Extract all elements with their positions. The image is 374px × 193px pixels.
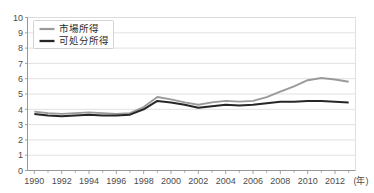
x-tick-label-2000: 2000 [161,176,181,186]
y-tick-label-1: 1 [18,150,23,160]
legend-label-0: 市場所得 [59,23,99,34]
x-tick-label-1994: 1994 [79,176,99,186]
chart-legend: 市場所得可処分所得 [34,21,114,49]
x-tick-label-1990: 1990 [24,176,44,186]
y-tick-label-9: 9 [18,28,23,38]
y-tick-label-6: 6 [18,74,23,84]
x-tick-label-1996: 1996 [106,176,126,186]
y-tick-label-0: 0 [18,166,23,176]
line-chart: 012345678910 199019921994199619982000200… [0,0,374,193]
y-axis-ticklabels: 012345678910 [13,13,28,176]
chart-figure: 012345678910 199019921994199619982000200… [0,0,374,193]
x-axis-ticklabels: 1990199219941996199820002002200420062008… [24,171,348,186]
y-tick-label-8: 8 [18,43,23,53]
series-group [34,78,348,116]
series-line-0 [34,78,348,114]
x-tick-label-2006: 2006 [243,176,263,186]
y-tick-label-5: 5 [18,89,23,99]
y-tick-label-7: 7 [18,59,23,69]
x-tick-label-2002: 2002 [188,176,208,186]
y-tick-label-4: 4 [18,105,23,115]
x-tick-label-1992: 1992 [52,176,72,186]
y-tick-label-2: 2 [18,135,23,145]
x-tick-label-2008: 2008 [270,176,290,186]
x-tick-label-2012: 2012 [325,176,345,186]
x-tick-label-2004: 2004 [216,176,236,186]
y-tick-label-10: 10 [13,13,23,23]
legend-label-1: 可処分所得 [59,35,109,46]
y-tick-label-3: 3 [18,120,23,130]
x-tick-label-2010: 2010 [298,176,318,186]
x-tick-label-1998: 1998 [134,176,154,186]
x-axis-unit-label: (年) [354,175,369,186]
